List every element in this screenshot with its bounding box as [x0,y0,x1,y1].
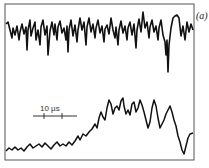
panel-label: (a) [196,10,208,21]
upper-trace [6,12,193,72]
lower-trace [6,98,193,154]
figure-canvas [0,0,209,168]
scale-bar-label: 10 µs [40,104,60,113]
scale-bar [33,113,77,119]
